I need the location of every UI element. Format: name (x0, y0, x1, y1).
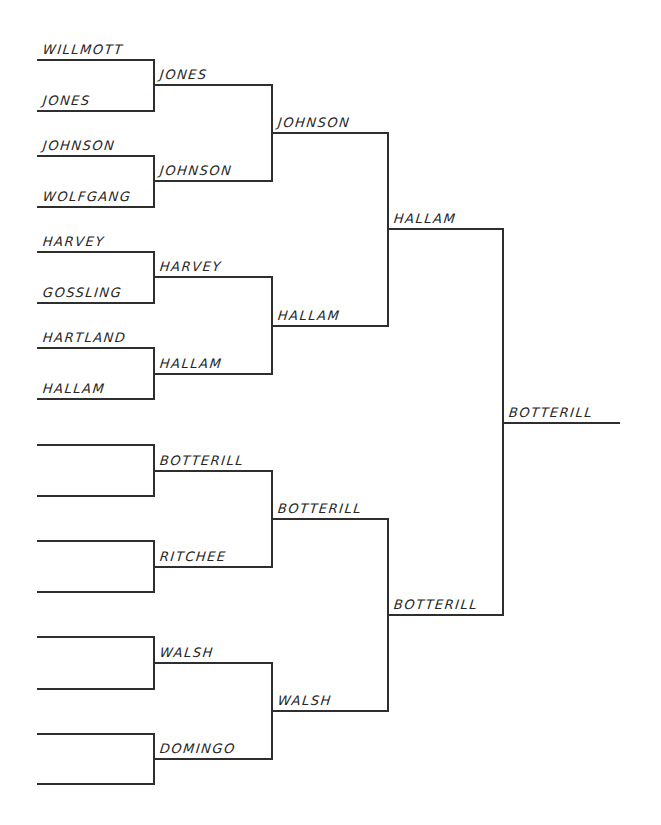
tournament-bracket: WILLMOTTJONESJOHNSONWOLFGANGHARVEYGOSSLI… (0, 0, 661, 825)
slot-line (388, 228, 504, 230)
slot-line (37, 783, 155, 785)
player-name: WALSH (277, 694, 332, 708)
slot-line (154, 84, 273, 86)
slot-line (154, 373, 273, 375)
player-name: WILLMOTT (42, 43, 124, 57)
player-name: JOHNSON (277, 116, 351, 130)
slot-line (37, 591, 155, 593)
player-name: WOLFGANG (42, 190, 132, 204)
player-name: JOHNSON (159, 164, 233, 178)
slot-line (272, 710, 389, 712)
player-name: BOTTERILL (393, 598, 479, 612)
player-name: DOMINGO (159, 742, 236, 756)
slot-line (503, 422, 620, 424)
slot-line (154, 662, 273, 664)
player-name: HARTLAND (42, 331, 127, 345)
slot-line (154, 470, 273, 472)
slot-line (272, 325, 389, 327)
slot-line (37, 540, 155, 542)
player-name: HARVEY (42, 235, 105, 249)
slot-line (37, 347, 155, 349)
player-name: RITCHEE (159, 550, 227, 564)
slot-line (154, 566, 273, 568)
slot-line (272, 132, 389, 134)
slot-line (37, 251, 155, 253)
player-name: JOHNSON (42, 139, 116, 153)
slot-line (37, 688, 155, 690)
slot-line (272, 518, 389, 520)
slot-line (37, 495, 155, 497)
slot-line (154, 758, 273, 760)
player-name: WALSH (159, 646, 214, 660)
slot-line (154, 180, 273, 182)
slot-line (37, 444, 155, 446)
player-name: JONES (159, 68, 208, 82)
player-name: HALLAM (393, 212, 457, 226)
player-name: HALLAM (159, 357, 223, 371)
slot-line (37, 59, 155, 61)
player-name: HARVEY (159, 260, 222, 274)
player-name: HALLAM (42, 382, 106, 396)
slot-line (388, 614, 504, 616)
player-name: BOTTERILL (159, 454, 245, 468)
player-name: JONES (42, 94, 91, 108)
slot-line (37, 398, 155, 400)
slot-line (154, 276, 273, 278)
player-name: BOTTERILL (508, 406, 594, 420)
player-name: HALLAM (277, 309, 341, 323)
player-name: GOSSLING (42, 286, 123, 300)
slot-line (37, 733, 155, 735)
slot-line (37, 206, 155, 208)
slot-line (37, 636, 155, 638)
player-name: BOTTERILL (277, 502, 363, 516)
slot-line (37, 302, 155, 304)
slot-line (37, 155, 155, 157)
slot-line (37, 110, 155, 112)
